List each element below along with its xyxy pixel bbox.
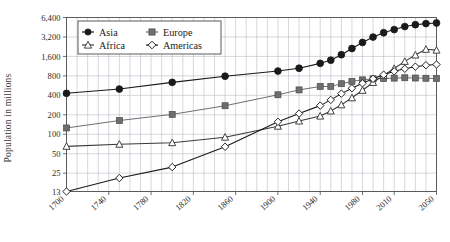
data-point-filled-circle [222, 73, 229, 80]
x-tick-label: 1740 [89, 194, 108, 213]
data-point-filled-square [222, 103, 228, 109]
data-point-open-diamond [412, 63, 419, 70]
data-point-filled-circle [63, 90, 70, 97]
data-point-filled-square [338, 81, 344, 87]
data-point-open-triangle [359, 87, 366, 94]
data-point-filled-square [169, 111, 175, 117]
data-point-filled-circle [317, 60, 324, 67]
data-point-filled-circle [296, 65, 303, 72]
x-tick-label: 1780 [131, 194, 150, 213]
data-point-filled-square [402, 75, 408, 81]
data-point-filled-square [296, 87, 302, 93]
data-point-filled-circle [433, 20, 440, 27]
data-point-open-triangle [412, 51, 419, 58]
data-point-open-triangle [317, 112, 324, 119]
data-point-open-diamond [295, 110, 302, 117]
x-tick-label: 2050 [416, 194, 435, 213]
data-point-open-diamond [327, 96, 334, 103]
legend-item-label: Africa [99, 40, 125, 51]
data-point-open-diamond [338, 90, 345, 97]
y-tick-label: 400 [48, 90, 61, 100]
data-point-filled-circle [338, 51, 345, 58]
x-tick-label: 1980 [342, 194, 361, 213]
data-point-filled-square [391, 75, 397, 81]
data-point-filled-circle [380, 29, 387, 36]
data-point-open-triangle [401, 58, 408, 65]
data-point-open-triangle [327, 107, 334, 114]
x-tick-label: 1700 [46, 194, 65, 213]
data-point-open-diamond [348, 85, 355, 92]
series-line-africa [67, 49, 437, 146]
data-point-open-triangle [338, 101, 345, 108]
data-point-filled-circle [401, 23, 408, 30]
data-point-filled-circle [359, 39, 366, 46]
x-tick-label: 1940 [300, 194, 319, 213]
data-point-open-diamond [317, 102, 324, 109]
y-tick-label: 200 [48, 110, 61, 120]
y-axis-title-text: Population in millions [3, 73, 13, 162]
data-point-open-diamond [116, 174, 123, 181]
data-point-filled-square [423, 75, 429, 81]
x-tick-label: 1900 [258, 194, 277, 213]
data-point-filled-square [149, 29, 155, 35]
y-tick-label: 50 [52, 149, 61, 159]
y-tick-label: 6,400 [41, 13, 60, 23]
data-point-filled-square [328, 83, 334, 89]
data-point-filled-circle [349, 45, 356, 52]
data-point-filled-circle [275, 68, 282, 75]
legend-item-label: Asia [99, 27, 118, 38]
x-tick-label: 2010 [374, 194, 393, 213]
y-tick-label: 3,200 [41, 32, 60, 42]
data-point-filled-circle [116, 86, 123, 93]
y-tick-label: 100 [48, 129, 61, 139]
data-point-open-diamond [221, 143, 228, 150]
data-point-filled-square [275, 92, 281, 98]
data-point-open-diamond [274, 118, 281, 125]
data-point-open-diamond [433, 61, 440, 68]
data-point-filled-square [64, 125, 70, 131]
data-point-filled-circle [370, 34, 377, 41]
x-tick-label: 1820 [173, 194, 192, 213]
legend-item-label: Americas [163, 40, 202, 51]
series-line-americas [67, 64, 437, 191]
data-point-filled-square [349, 78, 355, 84]
data-point-filled-square [412, 75, 418, 81]
data-point-filled-circle [391, 26, 398, 33]
data-point-filled-circle [169, 79, 176, 86]
series-europe [64, 75, 440, 131]
x-tick-label: 1860 [216, 194, 235, 213]
data-point-filled-square [317, 83, 323, 89]
data-point-filled-square [434, 76, 440, 82]
data-point-filled-square [116, 118, 122, 124]
y-tick-label: 1,600 [41, 52, 60, 62]
data-point-open-diamond [401, 65, 408, 72]
x-axis-ticks: 1700174017801820186019001940198020102050 [46, 192, 436, 213]
data-point-filled-circle [327, 57, 334, 64]
y-axis-ticks: 1325501002004008001,6003,2006,400 [41, 13, 66, 197]
data-point-open-diamond [391, 68, 398, 75]
data-point-open-diamond [422, 61, 429, 68]
data-point-open-diamond [63, 188, 70, 195]
y-tick-label: 800 [48, 71, 61, 81]
chart-canvas: Population in millions 13255010020040080… [0, 0, 450, 242]
y-axis-title: Population in millions [3, 73, 13, 162]
data-point-open-diamond [169, 163, 176, 170]
y-tick-label: 25 [52, 168, 61, 178]
legend-item-label: Europe [163, 27, 193, 38]
chart-legend: AsiaEuropeAfricaAmericas [78, 21, 221, 54]
data-point-filled-circle [412, 21, 419, 28]
data-point-filled-circle [423, 20, 430, 27]
data-point-filled-circle [85, 29, 91, 35]
population-line-chart: Population in millions 13255010020040080… [0, 0, 450, 242]
